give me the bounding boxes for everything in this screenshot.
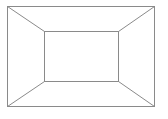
inner-rectangle	[45, 32, 119, 82]
connector-bottom-right	[119, 82, 155, 107]
connector-top-left	[8, 7, 45, 32]
perspective-frame-diagram	[0, 0, 168, 119]
connector-top-right	[119, 7, 155, 32]
connector-bottom-left	[8, 82, 45, 107]
diagram-canvas	[0, 0, 168, 119]
